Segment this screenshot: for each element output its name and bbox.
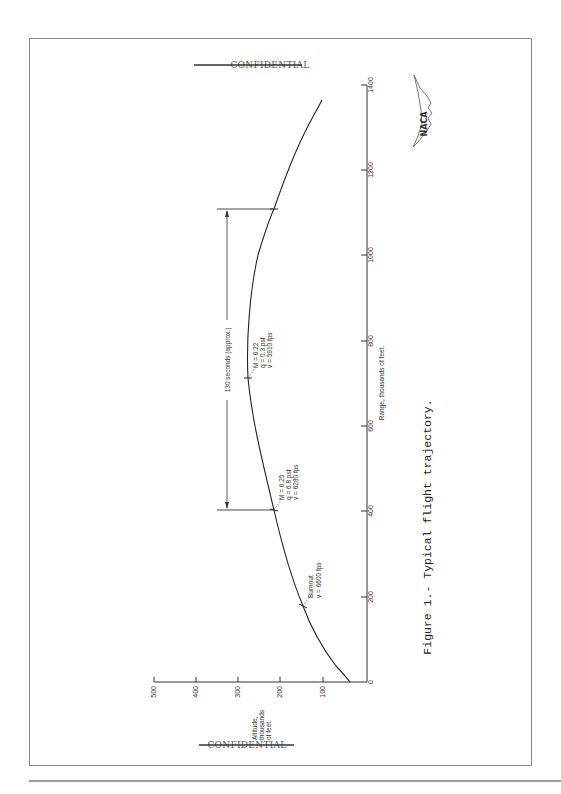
marker-point-b: M = 6.22 q = 0.3 psf v = 5910 fps: [244, 332, 274, 378]
svg-text:Burnout: Burnout: [307, 575, 314, 598]
confidential-stamp-bottom: CONFIDENTIAL: [199, 740, 294, 750]
svg-text:200: 200: [367, 591, 374, 603]
svg-text:400: 400: [192, 686, 199, 698]
altitude-axis: 100 200 300 400 500 Altitude, thousands …: [150, 677, 367, 740]
svg-text:v = 6280 fps: v = 6280 fps: [292, 464, 300, 500]
svg-text:500: 500: [150, 686, 157, 698]
svg-text:200: 200: [276, 686, 283, 698]
svg-text:600: 600: [367, 420, 374, 432]
marker-point-a: M = 6.25 q = 6.8 psf v = 6280 fps: [270, 464, 300, 511]
naca-logo: NACA: [413, 75, 432, 147]
svg-text:1400: 1400: [367, 77, 374, 93]
svg-text:v = 5910 fps: v = 5910 fps: [266, 332, 274, 368]
range-axis-title: Range, thousands of feet.: [378, 346, 386, 421]
trajectory-curve: [247, 100, 350, 682]
range-axis: 0 200 400 600 800 1000 1200 1400 Range, …: [361, 77, 386, 684]
svg-text:M = 6.22: M = 6.22: [252, 342, 259, 368]
svg-text:400: 400: [367, 505, 374, 517]
figure-caption: Figure 1.- Typical flight trajectory.: [421, 399, 434, 654]
svg-text:Figure 1.- Typical flight traj: Figure 1.- Typical flight trajectory.: [421, 399, 434, 654]
confidential-stamp-top: CONFIDENTIAL: [194, 60, 310, 70]
svg-text:NACA: NACA: [420, 111, 429, 137]
svg-text:0: 0: [367, 680, 374, 684]
svg-text:thousands: thousands: [258, 709, 265, 740]
altitude-axis-title: Altitude, thousands of feet.: [251, 709, 272, 740]
svg-text:of feet.: of feet.: [265, 720, 272, 740]
svg-text:Altitude,: Altitude,: [251, 716, 258, 740]
burnout-marker: Burnout v = 6600 fps: [299, 562, 323, 608]
svg-text:300: 300: [234, 686, 241, 698]
svg-text:1000: 1000: [367, 247, 374, 263]
svg-text:100: 100: [319, 686, 326, 698]
svg-text:1200: 1200: [367, 162, 374, 178]
trajectory-chart: CONFIDENTIAL CONFIDENTIAL 0 200 400 600 …: [0, 0, 561, 794]
svg-text:M = 6.25: M = 6.25: [278, 474, 285, 500]
svg-text:v = 6600 fps: v = 6600 fps: [315, 562, 323, 598]
svg-text:800: 800: [367, 335, 374, 347]
svg-text:130 seconds (approx.): 130 seconds (approx.): [224, 328, 232, 393]
